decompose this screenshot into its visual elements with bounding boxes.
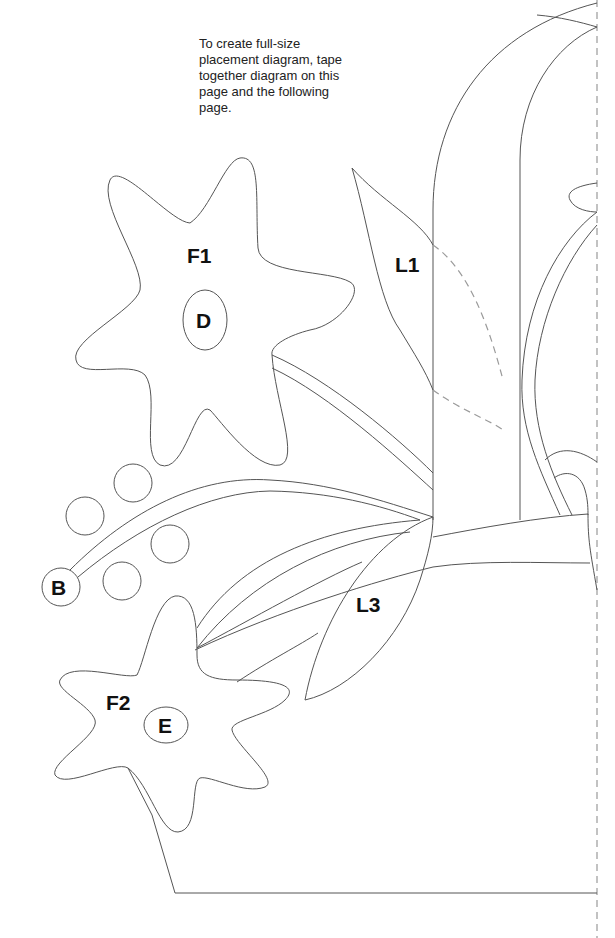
berry [66,497,104,535]
label-l3: L3 [356,593,381,616]
label-d: D [196,309,211,332]
label-f2: F2 [106,691,131,714]
leaf-l3: L3 [305,517,433,700]
berry [103,562,141,600]
f1-stem [272,355,433,490]
label-l1: L1 [395,253,420,276]
hidden-leaf-line [433,245,503,380]
basket-body [152,815,597,893]
berries: B [42,464,189,606]
hidden-leaf-line [433,390,503,430]
flower-f1: F1 D [76,158,355,466]
right-stem-group [522,183,597,515]
f2-stems [197,520,420,682]
basket-left-edge [128,768,152,815]
label-e: E [158,714,172,737]
flower-f2: F2 E [55,596,290,832]
basket-handle [433,3,597,520]
berry [151,525,189,563]
leaf-l1: L1 [352,168,433,390]
label-f1: F1 [187,244,212,267]
label-b: B [51,576,66,599]
placement-diagram: L1 F1 D B L3 F2 [0,0,615,938]
berry [114,464,152,502]
